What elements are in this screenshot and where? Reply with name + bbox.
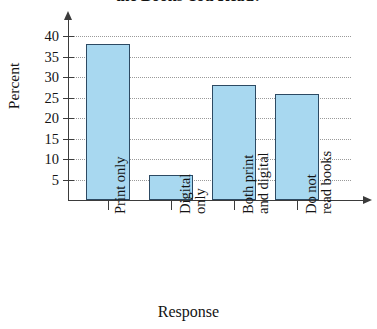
x-axis-tick xyxy=(171,200,172,210)
y-axis-tick-label: 15 xyxy=(45,130,60,147)
x-axis-category-label: Both printand digital xyxy=(241,152,271,214)
x-axis-category-label: Digitalonly xyxy=(178,174,208,214)
grid-line xyxy=(68,36,351,37)
bar-chart: the Books You Read? 510152025303540Print… xyxy=(0,0,377,329)
chart-title: the Books You Read? xyxy=(0,0,377,5)
y-axis-tick xyxy=(63,98,74,99)
y-axis-tick-label: 20 xyxy=(45,110,60,127)
y-axis-tick-label: 40 xyxy=(45,28,60,45)
y-axis-tick xyxy=(63,77,74,78)
y-axis-title: Percent xyxy=(5,63,23,109)
x-axis-label-line: only xyxy=(193,174,208,214)
y-axis-tick-label: 25 xyxy=(45,89,60,106)
y-axis-tick xyxy=(63,36,74,37)
x-axis-label-line: and digital xyxy=(256,152,271,214)
y-axis-tick xyxy=(63,139,74,140)
y-axis-tick-label: 35 xyxy=(45,48,60,65)
y-axis-tick xyxy=(63,57,74,58)
plot-area: 510152025303540Print onlyDigitalonlyBoth… xyxy=(68,28,353,200)
y-axis-tick xyxy=(63,118,74,119)
y-axis-line xyxy=(68,18,69,200)
y-axis-tick-label: 5 xyxy=(52,171,59,188)
y-axis-tick xyxy=(63,180,74,181)
x-axis-tick xyxy=(234,200,235,210)
x-axis-category-label: Do notread books xyxy=(304,151,334,214)
x-axis-label-line: Digital xyxy=(178,174,193,214)
x-axis-label-line: Print only xyxy=(113,156,128,214)
x-axis-tick xyxy=(297,200,298,210)
y-axis-arrow-icon xyxy=(64,11,72,20)
y-axis-tick-label: 30 xyxy=(45,69,60,86)
x-axis-label-line: read books xyxy=(319,151,334,214)
x-axis-category-label: Print only xyxy=(113,156,128,214)
y-axis-tick xyxy=(63,159,74,160)
x-axis-title: Response xyxy=(0,303,377,321)
x-axis-label-line: Both print xyxy=(241,152,256,214)
y-axis-tick-label: 10 xyxy=(45,151,60,168)
x-axis-label-line: Do not xyxy=(304,151,319,214)
x-axis-arrow-icon xyxy=(363,196,372,204)
x-axis-tick xyxy=(108,200,109,210)
